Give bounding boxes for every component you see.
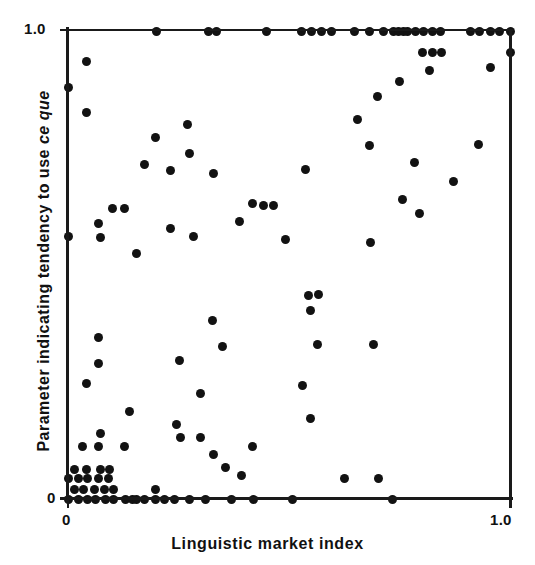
data-point — [74, 474, 83, 483]
data-point — [475, 27, 484, 36]
data-point — [151, 133, 160, 142]
x-axis-tick-right — [509, 499, 512, 508]
data-point — [212, 27, 221, 36]
data-point — [298, 381, 307, 390]
data-point — [353, 115, 362, 124]
data-point — [269, 201, 278, 210]
data-point — [259, 201, 268, 210]
data-point — [398, 195, 407, 204]
data-point — [109, 485, 118, 494]
x-axis-line — [66, 497, 513, 500]
data-point — [374, 474, 383, 483]
data-point — [94, 333, 103, 342]
data-point — [437, 48, 446, 57]
data-point — [350, 27, 359, 36]
data-point — [96, 233, 105, 242]
data-point — [120, 204, 129, 213]
data-point — [301, 165, 310, 174]
x-axis-tick-label-min: 0 — [62, 511, 71, 528]
data-point — [314, 290, 323, 299]
data-point — [248, 199, 257, 208]
data-point — [307, 27, 316, 36]
data-point — [466, 27, 475, 36]
data-point — [94, 442, 103, 451]
data-point — [410, 158, 419, 167]
data-point — [369, 340, 378, 349]
data-point — [185, 149, 194, 158]
data-point — [235, 217, 244, 226]
data-point — [428, 48, 437, 57]
data-point — [373, 92, 382, 101]
data-point — [120, 442, 129, 451]
data-point — [94, 474, 103, 483]
data-point — [152, 27, 161, 36]
data-point — [90, 485, 99, 494]
data-point — [196, 389, 205, 398]
data-point — [172, 420, 181, 429]
data-point — [94, 219, 103, 228]
data-point — [209, 450, 218, 459]
data-point — [208, 316, 217, 325]
data-point — [82, 57, 91, 66]
plot-top-border — [66, 29, 513, 31]
data-point — [306, 306, 315, 315]
data-point — [436, 27, 445, 36]
data-point — [237, 471, 246, 480]
data-point — [70, 465, 79, 474]
y-axis-title-italic-term: ce que — [35, 90, 52, 144]
data-point — [209, 169, 218, 178]
data-point — [365, 141, 374, 150]
data-point — [304, 291, 313, 300]
data-point — [100, 485, 109, 494]
data-point — [166, 224, 175, 233]
data-point — [132, 249, 141, 258]
data-point — [78, 442, 87, 451]
data-point — [140, 160, 149, 169]
y-axis-title: Parameter indicating tendency to use ce … — [35, 21, 53, 521]
data-point — [313, 340, 322, 349]
data-point — [94, 359, 103, 368]
scatter-plot-figure: 1.0 0 0 1.0 Linguistic market index Para… — [0, 0, 535, 565]
x-axis-tick-left — [67, 499, 69, 508]
plot-right-border — [509, 29, 512, 503]
data-point — [486, 27, 495, 36]
data-point — [281, 235, 290, 244]
data-point — [262, 27, 271, 36]
data-point — [449, 177, 458, 186]
data-point — [175, 356, 184, 365]
y-axis-tick-top — [60, 29, 68, 31]
data-point — [327, 27, 336, 36]
data-point — [108, 204, 117, 213]
data-point — [379, 27, 388, 36]
data-point — [340, 474, 349, 483]
data-point — [365, 27, 374, 36]
data-point — [83, 474, 92, 483]
data-point — [82, 379, 91, 388]
data-point — [70, 485, 79, 494]
data-point — [495, 27, 504, 36]
data-point — [317, 27, 326, 36]
x-axis-tick-label-max: 1.0 — [490, 511, 512, 528]
x-axis-title: Linguistic market index — [0, 535, 535, 553]
data-point — [486, 63, 495, 72]
data-point — [418, 48, 427, 57]
data-point — [306, 414, 315, 423]
data-point — [104, 474, 113, 483]
data-point — [189, 232, 198, 241]
data-point — [474, 140, 483, 149]
plot-area — [68, 31, 510, 499]
data-point — [166, 166, 175, 175]
data-point — [297, 27, 306, 36]
data-point — [82, 108, 91, 117]
data-point — [415, 209, 424, 218]
data-point — [176, 433, 185, 442]
data-point — [248, 442, 257, 451]
data-point — [395, 77, 404, 86]
data-point — [125, 407, 134, 416]
data-point — [79, 485, 88, 494]
data-point — [96, 429, 105, 438]
data-point — [221, 463, 230, 472]
data-point — [196, 433, 205, 442]
data-point — [183, 120, 192, 129]
data-point — [218, 342, 227, 351]
